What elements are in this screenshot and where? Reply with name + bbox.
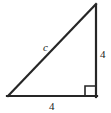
triangle-canvas: c 4 4 xyxy=(0,0,111,113)
hypotenuse-label: c xyxy=(43,41,48,53)
right-triangle-figure: c 4 4 xyxy=(0,0,111,113)
horizontal-leg-label: 4 xyxy=(49,100,55,112)
vertical-leg-label: 4 xyxy=(100,48,106,60)
right-angle-marker-icon xyxy=(85,86,95,96)
hypotenuse-line xyxy=(8,4,96,96)
